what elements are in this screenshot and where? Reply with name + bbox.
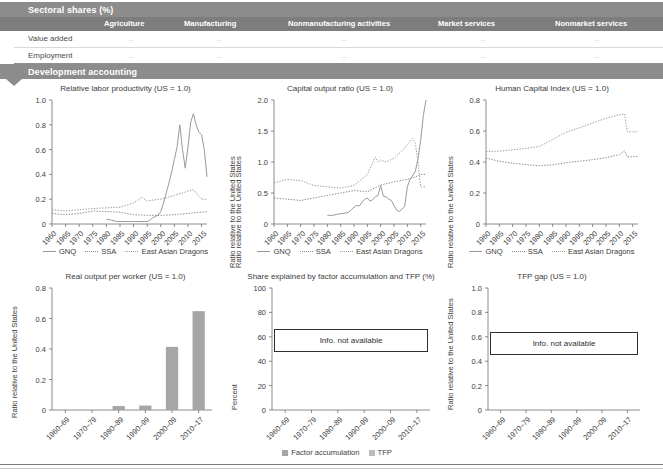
solid-line-icon [257,251,270,252]
chart-title: Share explained by factor accumulation a… [236,272,446,281]
chart-legend: GNQ SSA East Asian Dragons [452,247,652,256]
legend-item-east-asian-dragons: East Asian Dragons [125,247,208,256]
chart-title: Relative labor productivity (US = 1.0) [18,84,233,93]
legend-item-gnq: GNQ [469,247,502,256]
y-axis-tick: 0.4 [18,345,46,354]
legend-label-factor-accumulation: Factor accumulation [291,448,359,457]
y-axis-label: Ratio relative to the United States [446,100,455,268]
y-axis-tick: 0.4 [452,158,480,167]
plot-area [52,288,212,410]
legend-item-factor-accumulation: Factor accumulation [282,448,359,457]
legend-item-ssa: SSA [512,247,543,256]
cell-employment-nonmarket-services: .. [595,51,599,60]
y-axis-tick: 0.4 [18,170,46,179]
y-axis-tick: 20 [236,381,266,390]
legend-item-gnq: GNQ [43,247,76,256]
y-axis-tick: 0.2 [452,189,480,198]
legend-label-east-asian-dragons: East Asian Dragons [568,247,635,256]
chart-title: Real output per worker (US = 1.0) [18,272,233,281]
cell-employment-nonmanufacturing: .. [342,51,346,60]
plot-area [52,100,207,224]
chart-real-output-per-worker: Real output per worker (US = 1.0) Ratio … [18,272,233,457]
info-not-available-box: Info. not available [490,332,638,355]
info-not-available-box: Info. not available [274,329,428,352]
y-axis-tick: 0.8 [452,308,482,317]
y-axis-tick: 60 [236,332,266,341]
legend-label-ssa: SSA [316,247,331,256]
cell-employment-agriculture: .. [129,51,133,60]
page-bottom-rule-2 [0,468,663,469]
chart-legend: GNQ SSA East Asian Dragons [18,247,233,256]
plot-area [274,100,426,224]
cell-value-added-manufacturing: .. [217,34,221,43]
column-header-nonmarket-services: Nonmarket services [555,19,627,28]
section-title-development-accounting: Development accounting [28,67,137,77]
row-label-value-added: Value added [28,34,72,43]
dotted-line-icon [340,251,353,252]
y-axis-tick: 2.0 [240,96,268,105]
row-label-employment: Employment [28,51,72,60]
legend-label-gnq: GNQ [59,247,76,256]
solid-line-icon [469,251,482,252]
dotted-line-icon [125,251,138,252]
legend-label-gnq: GNQ [273,247,290,256]
dotted-line-icon [85,251,98,252]
legend-label-gnq: GNQ [485,247,502,256]
cell-value-added-market-services: .. [481,34,485,43]
y-axis-tick: 40 [236,357,266,366]
legend-label-east-asian-dragons: East Asian Dragons [356,247,423,256]
bar-chart-legend: Factor accumulation TFP [232,448,442,457]
chart-share-factor-accumulation-tfp: Share explained by factor accumulation a… [236,272,446,457]
square-swatch-icon [282,450,288,456]
y-axis-tick: 0 [452,406,482,415]
y-axis-tick: 0 [18,406,46,415]
page-bottom-rule [0,464,663,465]
legend-item-east-asian-dragons: East Asian Dragons [552,247,635,256]
solid-line-icon [43,251,56,252]
legend-label-east-asian-dragons: East Asian Dragons [141,247,208,256]
table-header-row: Agriculture Manufacturing Nonmanufacturi… [0,17,663,31]
chart-title: Capital output ratio (US = 1.0) [240,84,440,93]
y-axis-label: Ratio relative to the United States [234,100,243,268]
section-banner-sectoral-shares: Sectoral shares (%) [0,2,663,17]
table-row-employment: Employment .. .. .. .. .. [0,48,663,64]
y-axis-label: Percent [230,288,239,410]
y-axis-tick: 0.6 [18,145,46,154]
legend-item-gnq: GNQ [257,247,290,256]
table-row-value-added: Value added .. .. .. .. .. [0,31,663,47]
y-axis-tick: 100 [236,284,266,293]
y-axis-tick: 0 [236,406,266,415]
chart-tfp-gap: TFP gap (US = 1.0) Ratio relative to the… [452,272,652,457]
cell-value-added-nonmanufacturing: .. [342,34,346,43]
y-axis-tick: 0.8 [18,284,46,293]
y-axis-tick: 1.0 [18,96,46,105]
legend-label-tfp: TFP [378,448,392,457]
dotted-line-icon [512,251,525,252]
x-axis-tick: 2010–17 [585,415,634,464]
y-axis-label: Ratio relative to the United States [446,288,455,410]
chart-title: TFP gap (US = 1.0) [452,272,652,281]
chart-human-capital-index: Human Capital Index (US = 1.0) Ratio rel… [452,84,652,264]
dotted-line-icon [300,251,313,252]
y-axis-tick: 0.4 [452,357,482,366]
legend-item-ssa: SSA [300,247,331,256]
y-axis-tick: 1.5 [240,127,268,136]
cell-employment-market-services: .. [481,51,485,60]
cell-value-added-agriculture: .. [129,34,133,43]
y-axis-tick: 0.6 [452,332,482,341]
y-axis-tick: 1.0 [240,158,268,167]
y-axis-tick: 0 [18,220,46,229]
y-axis-tick: 0.6 [452,127,480,136]
cell-value-added-nonmarket-services: .. [595,34,599,43]
legend-item-tfp: TFP [369,448,392,457]
y-axis-tick: 0.5 [240,189,268,198]
section-title-sectoral-shares: Sectoral shares (%) [28,5,113,15]
chart-relative-labor-productivity: Relative labor productivity (US = 1.0) R… [18,84,233,264]
square-swatch-icon [369,450,375,456]
y-axis-tick: 0.6 [18,314,46,323]
y-axis-tick: 0.8 [18,120,46,129]
column-header-nonmanufacturing-activities: Nonmanufacturing activities [288,19,390,28]
column-header-market-services: Market services [438,19,495,28]
plot-area [486,100,638,224]
x-axis-tick: 1980–89 [509,415,558,464]
